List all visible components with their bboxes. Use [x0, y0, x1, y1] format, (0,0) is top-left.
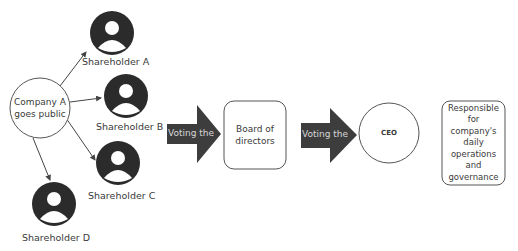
board-label-line2: directors	[235, 135, 275, 147]
resp-line-1: Responsible	[448, 103, 499, 115]
connector-to-shareholder-d	[33, 138, 50, 180]
shareholder-d-label: Shareholder D	[22, 232, 86, 243]
company-label-line1: Company A	[14, 96, 66, 108]
arrow-2-label: Voting the	[302, 129, 348, 139]
resp-line-2: for	[468, 114, 480, 126]
arrow-1-label: Voting the	[168, 128, 214, 138]
resp-line-3: company's	[451, 126, 497, 138]
resp-line-4: daily	[463, 137, 483, 149]
person-icon-a	[90, 11, 134, 55]
responsibility-node-label: Responsible for company's daily operatio…	[442, 101, 505, 185]
person-icon-c	[96, 141, 140, 185]
company-node-label: Company A goes public	[10, 92, 70, 124]
ceo-node-label: CEO	[359, 103, 419, 163]
resp-line-5: operations	[451, 149, 496, 161]
shareholder-c-label: Shareholder C	[88, 190, 152, 201]
connector-to-shareholder-c	[66, 118, 95, 160]
resp-line-6: and	[466, 160, 482, 172]
shareholder-b-label: Shareholder B	[96, 121, 160, 132]
person-icon-d	[32, 182, 76, 226]
person-icon-b	[104, 74, 148, 118]
company-label-line2: goes public	[14, 108, 65, 120]
board-label-line1: Board of	[236, 123, 274, 135]
connector-to-shareholder-b	[70, 98, 101, 102]
resp-line-7: governance	[448, 172, 498, 184]
board-node-label: Board of directors	[224, 101, 286, 169]
shareholder-a-label: Shareholder A	[82, 56, 146, 67]
